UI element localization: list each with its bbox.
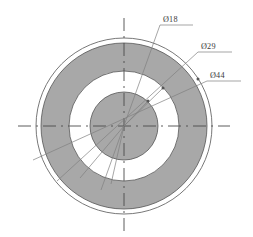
dimension-label-44: Ø44: [210, 71, 225, 80]
dimension-label-18: Ø18: [163, 15, 178, 24]
concentric-circles-drawing: Ø18 Ø29 Ø44: [0, 0, 253, 237]
arrowhead-dim-29: [162, 87, 165, 90]
dimension-label-29: Ø29: [201, 42, 216, 51]
technical-drawing-container: Ø18 Ø29 Ø44: [0, 0, 253, 237]
arrowhead-dim-18: [147, 100, 150, 103]
arrowhead-dim-44: [197, 78, 200, 81]
